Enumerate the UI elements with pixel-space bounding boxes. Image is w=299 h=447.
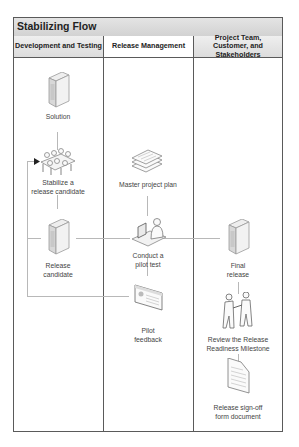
connector xyxy=(76,238,130,239)
feedback-loop-connector xyxy=(27,161,28,296)
node-review-milestone-label: Review the ReleaseReadiness Milestone xyxy=(206,336,269,353)
lane-divider xyxy=(193,36,194,432)
lane-header-stakeholders: Project Team, Customer, and Stakeholders xyxy=(194,36,282,58)
node-signoff-doc-label: Release sign-offform document xyxy=(214,404,263,421)
node-pilot-feedback-label: Pilotfeedback xyxy=(134,327,162,344)
node-solution-label: Solution xyxy=(46,113,71,122)
node-stabilize-label: Stabilize arelease candidate xyxy=(31,179,85,196)
node-final-release-label: Finalrelease xyxy=(227,262,249,279)
node-pilot-test-label: Conduct apilot test xyxy=(133,252,164,269)
window-report-icon xyxy=(134,283,164,311)
document-icon xyxy=(227,358,251,394)
connector xyxy=(147,196,148,216)
document-stack-icon xyxy=(130,148,164,176)
server-icon xyxy=(46,219,70,255)
lane-divider xyxy=(103,36,104,432)
lane-header-development: Development and Testing xyxy=(14,36,103,58)
connector xyxy=(27,238,41,239)
person-at-computer-icon xyxy=(130,217,168,247)
connector xyxy=(160,238,220,239)
team-meeting-icon xyxy=(37,148,79,176)
server-icon xyxy=(46,72,70,108)
lane-header-release-management: Release Management xyxy=(104,36,193,58)
feedback-loop-connector xyxy=(27,296,129,297)
handshake-icon xyxy=(222,292,254,330)
node-master-plan-label: Master project plan xyxy=(119,181,177,190)
server-icon xyxy=(226,219,250,255)
node-release-candidate-label: Releasecandidate xyxy=(43,262,72,279)
connector xyxy=(57,195,58,209)
diagram-title: Stabilizing Flow xyxy=(17,20,96,32)
